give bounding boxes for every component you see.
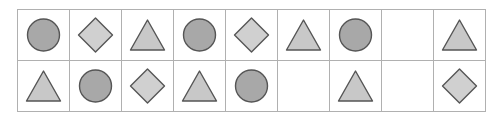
circle-icon <box>174 10 225 60</box>
circle-icon <box>226 61 277 111</box>
shape-grid-row <box>18 10 486 61</box>
diamond-icon <box>434 61 485 111</box>
diamond-icon <box>226 10 277 60</box>
grid-cell-r2c6[interactable] <box>278 61 330 112</box>
grid-cell-r1c5[interactable] <box>226 10 278 61</box>
grid-cell-r2c1[interactable] <box>18 61 70 112</box>
shape-grid-canvas <box>0 0 495 118</box>
triangle-icon <box>278 10 329 60</box>
triangle-icon <box>434 10 485 60</box>
triangle-icon <box>174 61 225 111</box>
grid-cell-r1c6[interactable] <box>278 10 330 61</box>
diamond-icon <box>70 10 121 60</box>
grid-cell-r1c2[interactable] <box>70 10 122 61</box>
grid-cell-r2c9[interactable] <box>434 61 486 112</box>
grid-cell-r2c2[interactable] <box>70 61 122 112</box>
grid-cell-r2c3[interactable] <box>122 61 174 112</box>
circle-icon <box>18 10 69 60</box>
grid-cell-r1c4[interactable] <box>174 10 226 61</box>
circle-icon <box>330 10 381 60</box>
shape-grid-row <box>18 61 486 112</box>
grid-cell-r1c8[interactable] <box>382 10 434 61</box>
empty-cell-placeholder <box>382 10 433 60</box>
empty-cell-placeholder <box>278 61 329 111</box>
grid-cell-r2c4[interactable] <box>174 61 226 112</box>
triangle-icon <box>122 10 173 60</box>
grid-cell-r1c9[interactable] <box>434 10 486 61</box>
grid-cell-r1c1[interactable] <box>18 10 70 61</box>
triangle-icon <box>330 61 381 111</box>
shape-grid-body <box>18 10 486 112</box>
grid-cell-r2c7[interactable] <box>330 61 382 112</box>
empty-cell-placeholder <box>382 61 433 111</box>
circle-icon <box>70 61 121 111</box>
diamond-icon <box>122 61 173 111</box>
triangle-icon <box>18 61 69 111</box>
grid-cell-r2c8[interactable] <box>382 61 434 112</box>
grid-cell-r1c7[interactable] <box>330 10 382 61</box>
grid-cell-r1c3[interactable] <box>122 10 174 61</box>
grid-cell-r2c5[interactable] <box>226 61 278 112</box>
shape-grid <box>17 9 486 112</box>
